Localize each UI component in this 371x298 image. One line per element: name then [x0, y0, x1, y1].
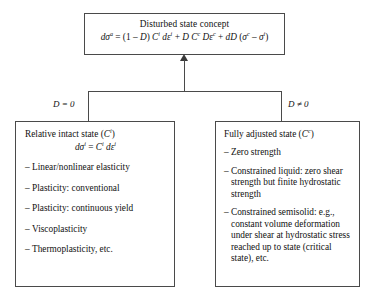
left-node-equation: dσi = Ci dεi: [25, 141, 166, 154]
list-item-label: Zero strength: [231, 147, 352, 159]
list-item: – Viscoplasticity: [25, 224, 166, 236]
dash-marker: –: [224, 147, 231, 159]
top-node-title: Disturbed state concept: [85, 18, 284, 30]
list-item: – Constrained semisolid: e.g., constant …: [224, 207, 352, 265]
node-disturbed-state-concept: Disturbed state concept dσa = (1 – D) Ci…: [84, 13, 285, 55]
list-item-label: Constrained liquid: zero shear strength …: [231, 166, 352, 201]
left-node-title: Relative intact state (Ci): [25, 128, 166, 140]
list-item-label: Plasticity: continuous yield: [32, 203, 166, 215]
right-node-item-list: – Zero strength – Constrained liquid: ze…: [224, 147, 352, 265]
connector-stem: [184, 60, 185, 92]
node-relative-intact-state: Relative intact state (Ci) dσi = Ci dεi …: [15, 121, 175, 287]
dash-marker: –: [25, 203, 32, 215]
list-item: – Constrained liquid: zero shear strengt…: [224, 166, 352, 201]
list-item-label: Viscoplasticity: [32, 224, 166, 236]
list-item: – Plasticity: continuous yield: [25, 203, 166, 215]
connector-branch-bar: [88, 91, 282, 92]
list-item: – Linear/nonlinear elasticity: [25, 162, 166, 174]
list-item: – Zero strength: [224, 147, 352, 159]
list-item-label: Thermoplasticity, etc.: [32, 244, 166, 256]
dash-marker: –: [25, 244, 32, 256]
dash-marker: –: [25, 224, 32, 236]
dash-marker: –: [25, 162, 32, 174]
dash-marker: –: [224, 166, 231, 178]
list-item-label: Constrained semisolid: e.g., constant vo…: [231, 207, 352, 265]
connector-left-drop: [88, 91, 89, 121]
dash-marker: –: [224, 207, 231, 219]
left-node-item-list: – Linear/nonlinear elasticity – Plastici…: [25, 162, 166, 256]
connector-right-drop: [281, 91, 282, 121]
right-node-title: Fully adjusted state (Cc): [224, 128, 352, 140]
dash-marker: –: [25, 183, 32, 195]
diagram-canvas: Disturbed state concept dσa = (1 – D) Ci…: [0, 0, 371, 298]
list-item-label: Linear/nonlinear elasticity: [32, 162, 166, 174]
list-item: – Plasticity: conventional: [25, 183, 166, 195]
list-item: – Thermoplasticity, etc.: [25, 244, 166, 256]
branch-label-left: D = 0: [53, 99, 75, 109]
list-item-label: Plasticity: conventional: [32, 183, 166, 195]
top-node-equation: dσa = (1 – D) Ci dεi + D Cc Dεc + dD (σc…: [85, 31, 284, 44]
branch-label-right: D ≠ 0: [288, 99, 308, 109]
node-fully-adjusted-state: Fully adjusted state (Cc) – Zero strengt…: [215, 121, 360, 287]
